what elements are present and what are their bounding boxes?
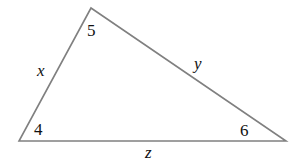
triangle-diagram: 5 4 6 x y z <box>0 0 306 160</box>
side-y-label: y <box>192 54 202 73</box>
side-x-label: x <box>36 61 45 80</box>
side-z-label: z <box>144 143 152 160</box>
angle-top-label: 5 <box>87 21 96 40</box>
angle-bottom-right-label: 6 <box>240 121 249 140</box>
angle-bottom-left-label: 4 <box>34 120 43 139</box>
